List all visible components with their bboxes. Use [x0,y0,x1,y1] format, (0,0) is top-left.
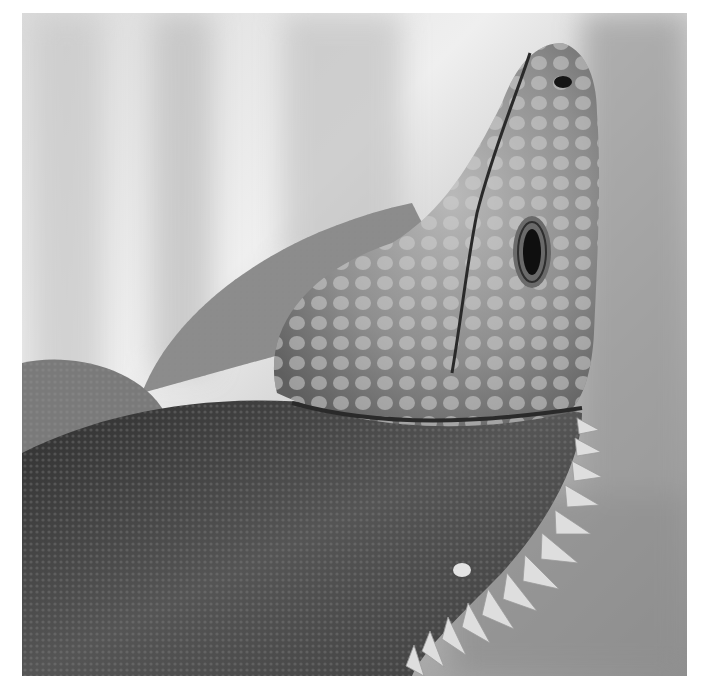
iguana-photo: Grayscale close-up of an iguana's head t… [22,13,687,676]
iguana-illustration [22,13,687,676]
scale-highlight [453,563,471,577]
eye [513,216,551,288]
nostril [554,76,572,88]
